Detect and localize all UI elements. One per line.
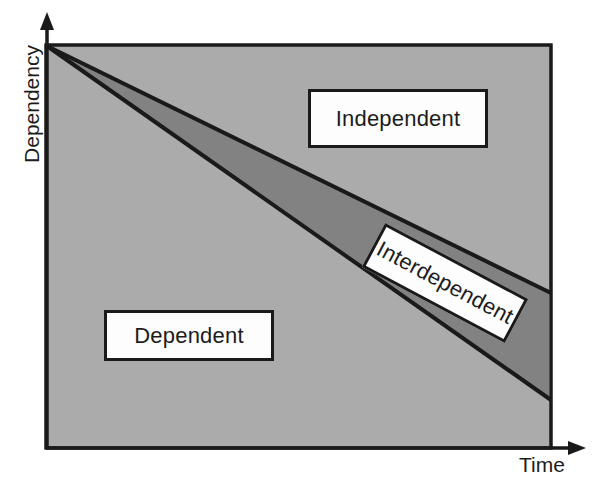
region-label-independent: Independent (308, 89, 488, 148)
y-axis-label: Dependency (20, 34, 44, 174)
dependency-time-diagram (0, 0, 600, 486)
x-axis-arrow-icon (568, 441, 586, 455)
region-label-dependent: Dependent (104, 310, 274, 361)
y-axis-arrow-icon (40, 12, 54, 30)
x-axis-label: Time (519, 453, 565, 477)
